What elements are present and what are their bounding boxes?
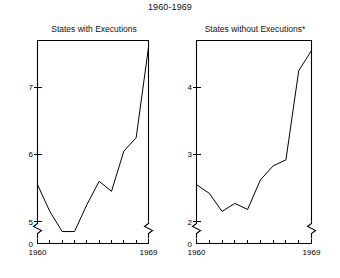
x-tick-label-1960: 1960	[29, 248, 47, 257]
plot-frame	[38, 41, 149, 222]
y-tick-label-7: 7	[29, 83, 34, 92]
chart-figure: 1960-1969 States with Executions States …	[0, 0, 340, 278]
x-tick-label-1969: 1969	[303, 248, 321, 257]
x-tick-label-1969: 1969	[140, 248, 158, 257]
y-tick-label-2: 2	[188, 218, 193, 227]
y-tick-label-6: 6	[29, 150, 34, 159]
y-tick-label-zero: 0	[188, 240, 193, 249]
y-axis-break-left	[34, 222, 42, 239]
y-axis-break-right	[308, 222, 316, 239]
data-series-line	[38, 47, 149, 231]
data-series-line	[197, 51, 312, 212]
x-tick-label-1960: 1960	[188, 248, 206, 257]
y-axis-break-left	[193, 222, 201, 239]
y-tick-label-4: 4	[188, 83, 193, 92]
y-tick-label-3: 3	[188, 150, 193, 159]
y-axis-break-right	[145, 222, 153, 239]
panel-right: 196019692340	[188, 41, 321, 257]
panel-left: 196019695670	[29, 41, 158, 257]
y-tick-label-5: 5	[29, 218, 34, 227]
chart-canvas: 196019695670 196019692340	[0, 0, 340, 278]
y-tick-label-zero: 0	[29, 240, 34, 249]
